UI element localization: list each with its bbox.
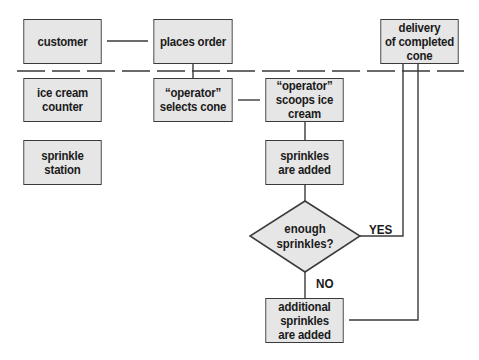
decision-label: enough sprinkles? bbox=[257, 218, 354, 254]
node-places-order-label: places order bbox=[160, 35, 226, 49]
node-operator-selects-cone: “operator” selects cone bbox=[153, 78, 232, 122]
decision-label-text: enough sprinkles? bbox=[276, 221, 333, 251]
node-delivery-label: delivery of completed cone bbox=[385, 21, 454, 63]
edge-label-no: NO bbox=[316, 276, 334, 291]
node-sprinkle-station: sprinkle station bbox=[23, 140, 101, 185]
edge-decision-yes bbox=[360, 64, 403, 236]
node-places-order: places order bbox=[153, 19, 232, 64]
node-ice-cream-counter-label: ice cream counter bbox=[37, 86, 88, 114]
node-additional-sprinkles: additional sprinkles are added bbox=[265, 298, 343, 343]
node-operator-selects-cone-label: “operator” selects cone bbox=[160, 86, 227, 114]
edge-additional-delivery bbox=[349, 64, 418, 320]
node-additional-sprinkles-label: additional sprinkles are added bbox=[278, 300, 330, 342]
node-sprinkles-added: sprinkles are added bbox=[265, 140, 343, 185]
node-operator-scoops: “operator” scoops ice cream bbox=[265, 78, 343, 122]
node-customer-label: customer bbox=[37, 35, 87, 49]
edge-label-yes: YES bbox=[369, 222, 392, 237]
node-ice-cream-counter: ice cream counter bbox=[23, 78, 101, 122]
node-customer: customer bbox=[23, 19, 101, 64]
node-operator-scoops-label: “operator” scoops ice cream bbox=[276, 79, 333, 121]
node-sprinkle-station-label: sprinkle station bbox=[41, 149, 83, 177]
flowchart-canvas: customer places order delivery of comple… bbox=[0, 0, 479, 360]
node-sprinkles-added-label: sprinkles are added bbox=[278, 149, 330, 177]
node-delivery: delivery of completed cone bbox=[380, 19, 458, 64]
